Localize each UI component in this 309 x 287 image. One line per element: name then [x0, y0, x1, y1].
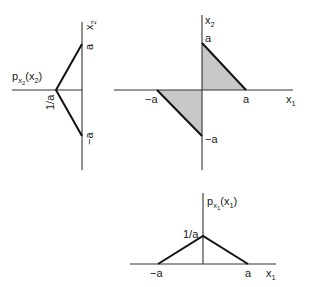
bottom-tick-a: a: [245, 267, 252, 279]
bottom-peak-label: 1/a: [183, 228, 199, 240]
svg-text:−a: −a: [83, 132, 95, 145]
left-tick-neg-a: −a: [83, 132, 95, 145]
svg-text:a: a: [83, 43, 95, 50]
center-tick-x-a: a: [243, 93, 250, 105]
center-y-axis-label: x2: [205, 14, 215, 29]
bottom-axis-label: x1: [266, 267, 276, 282]
left-peak-label: 1/a: [44, 94, 56, 110]
left-axis-label: x2: [83, 20, 98, 30]
svg-text:x2: x2: [83, 20, 98, 30]
diagram-canvas: x2 a −a 1/a px2(x2) x2 a −a −a a x1: [0, 0, 309, 287]
left-tick-a: a: [83, 43, 95, 50]
center-tick-x-neg-a: −a: [145, 93, 158, 105]
bottom-title: px1(x1): [207, 195, 237, 211]
bottom-marginal-panel: px1(x1) 1/a −a a x1: [130, 193, 276, 282]
center-tick-y-neg-a: −a: [205, 133, 218, 145]
bottom-tick-neg-a: −a: [150, 267, 163, 279]
center-x-axis-label: x1: [286, 93, 296, 108]
svg-text:1/a: 1/a: [44, 94, 56, 110]
center-joint-panel: x2 a −a −a a x1: [114, 14, 296, 170]
left-title: px2(x2): [12, 70, 42, 86]
left-marginal-panel: x2 a −a 1/a px2(x2): [12, 20, 98, 170]
center-tick-y-a: a: [205, 32, 212, 44]
